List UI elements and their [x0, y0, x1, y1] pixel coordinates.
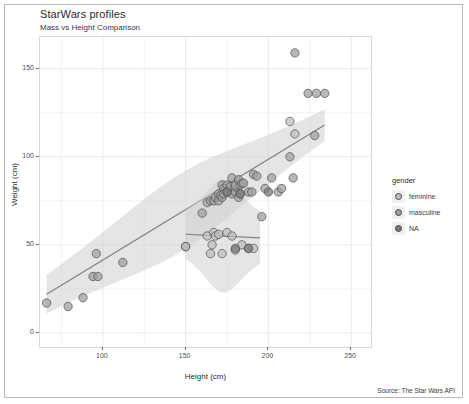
data-point — [264, 188, 272, 196]
legend-item-feminine[interactable]: feminine — [392, 190, 462, 203]
legend-label-masculine: masculine — [409, 209, 441, 216]
x-tick-label: 250 — [335, 352, 365, 359]
data-point — [223, 188, 231, 196]
data-point — [311, 131, 319, 139]
data-point — [253, 172, 261, 180]
data-point — [215, 230, 223, 238]
chart-subtitle: Mass vs Height Comparison — [40, 23, 140, 32]
data-point — [258, 213, 266, 221]
chart-figure: StarWars profiles Mass vs Height Compari… — [0, 0, 469, 404]
source-caption: Source: The Star Wars API — [377, 387, 455, 394]
data-point — [236, 190, 244, 198]
data-point — [231, 244, 239, 252]
y-tick-label: 0 — [6, 328, 34, 335]
data-point — [268, 174, 276, 182]
legend-key-masculine — [392, 206, 405, 219]
data-point — [248, 188, 256, 196]
x-axis-title: Height (cm) — [39, 372, 372, 381]
data-point — [291, 130, 299, 138]
legend-item-masculine[interactable]: masculine — [392, 206, 462, 219]
y-tick-mark — [36, 244, 39, 245]
y-tick-mark — [36, 332, 39, 333]
legend: gender feminine masculine NA — [392, 176, 462, 238]
data-point — [277, 184, 285, 192]
x-tick-mark — [350, 347, 351, 350]
legend-dot-masculine — [395, 209, 402, 216]
legend-label-feminine: feminine — [409, 193, 435, 200]
data-point — [64, 302, 72, 310]
data-point — [228, 232, 236, 240]
scatter-plot — [40, 37, 371, 347]
data-point — [286, 153, 294, 161]
data-point — [119, 258, 127, 266]
data-point — [208, 241, 216, 249]
y-tick-label: 100 — [6, 152, 34, 159]
data-point — [92, 249, 100, 257]
plot-panel — [39, 36, 372, 348]
data-point — [94, 272, 102, 280]
legend-title: gender — [392, 176, 462, 185]
data-point — [218, 249, 226, 257]
x-tick-mark — [102, 347, 103, 350]
x-tick-mark — [267, 347, 268, 350]
data-point — [291, 49, 299, 57]
legend-dot-feminine — [395, 193, 402, 200]
data-point — [239, 179, 247, 187]
data-point — [79, 294, 87, 302]
data-point — [304, 89, 312, 97]
x-tick-label: 200 — [252, 352, 282, 359]
data-point — [312, 89, 320, 97]
y-tick-label: 150 — [6, 64, 34, 71]
data-point — [42, 299, 50, 307]
legend-label-na: NA — [409, 225, 419, 232]
data-point — [206, 249, 214, 257]
legend-dot-na — [395, 225, 402, 232]
legend-key-feminine — [392, 190, 405, 203]
legend-item-na[interactable]: NA — [392, 222, 462, 235]
data-point — [198, 209, 206, 217]
data-point — [289, 174, 297, 182]
data-point — [244, 244, 252, 252]
x-tick-mark — [185, 347, 186, 350]
y-tick-mark — [36, 68, 39, 69]
data-point — [321, 89, 329, 97]
legend-key-na — [392, 222, 405, 235]
y-tick-label: 50 — [6, 240, 34, 247]
data-point — [181, 242, 189, 250]
data-point — [286, 117, 294, 125]
page-title: StarWars profiles — [40, 8, 126, 20]
x-tick-label: 150 — [170, 352, 200, 359]
y-tick-mark — [36, 156, 39, 157]
x-tick-label: 100 — [87, 352, 117, 359]
